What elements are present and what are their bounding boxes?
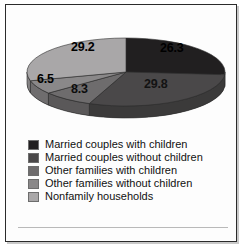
- figure-frame: 26.3 29.8 8.3 6.5 29.2 Married couples w…: [5, 4, 237, 242]
- slice-value-label: 29.8: [144, 77, 168, 91]
- chart-legend: Married couples with childrenMarried cou…: [28, 138, 228, 203]
- pie-chart-figure: 26.3 29.8 8.3 6.5 29.2 Married couples w…: [0, 0, 245, 249]
- legend-item-label: Married couples without children: [45, 151, 203, 164]
- slice-value-label: 6.5: [37, 72, 54, 86]
- pie-plot-area: 26.3 29.8 8.3 6.5 29.2: [12, 10, 242, 130]
- legend-item-label: Married couples with children: [45, 138, 187, 151]
- pie-slice-group: [27, 38, 225, 106]
- slice-value-label: 8.3: [71, 82, 88, 96]
- legend-item[interactable]: Married couples with children: [28, 138, 228, 151]
- legend-color-swatch: [28, 153, 39, 163]
- legend-item[interactable]: Married couples without children: [28, 151, 228, 164]
- legend-color-swatch: [28, 140, 39, 150]
- legend-item-label: Other families without children: [45, 177, 192, 190]
- pie-chart-graphic: [12, 10, 242, 130]
- slice-value-label: 29.2: [71, 40, 95, 54]
- legend-item[interactable]: Other families with children: [28, 164, 228, 177]
- legend-color-swatch: [28, 179, 39, 189]
- legend-item[interactable]: Nonfamily households: [28, 190, 228, 203]
- legend-color-swatch: [28, 166, 39, 176]
- slice-value-label: 26.3: [160, 41, 184, 55]
- legend-item-label: Other families with children: [45, 164, 177, 177]
- legend-item[interactable]: Other families without children: [28, 177, 228, 190]
- legend-divider: [18, 227, 228, 228]
- legend-item-label: Nonfamily households: [45, 190, 153, 203]
- legend-color-swatch: [28, 192, 39, 202]
